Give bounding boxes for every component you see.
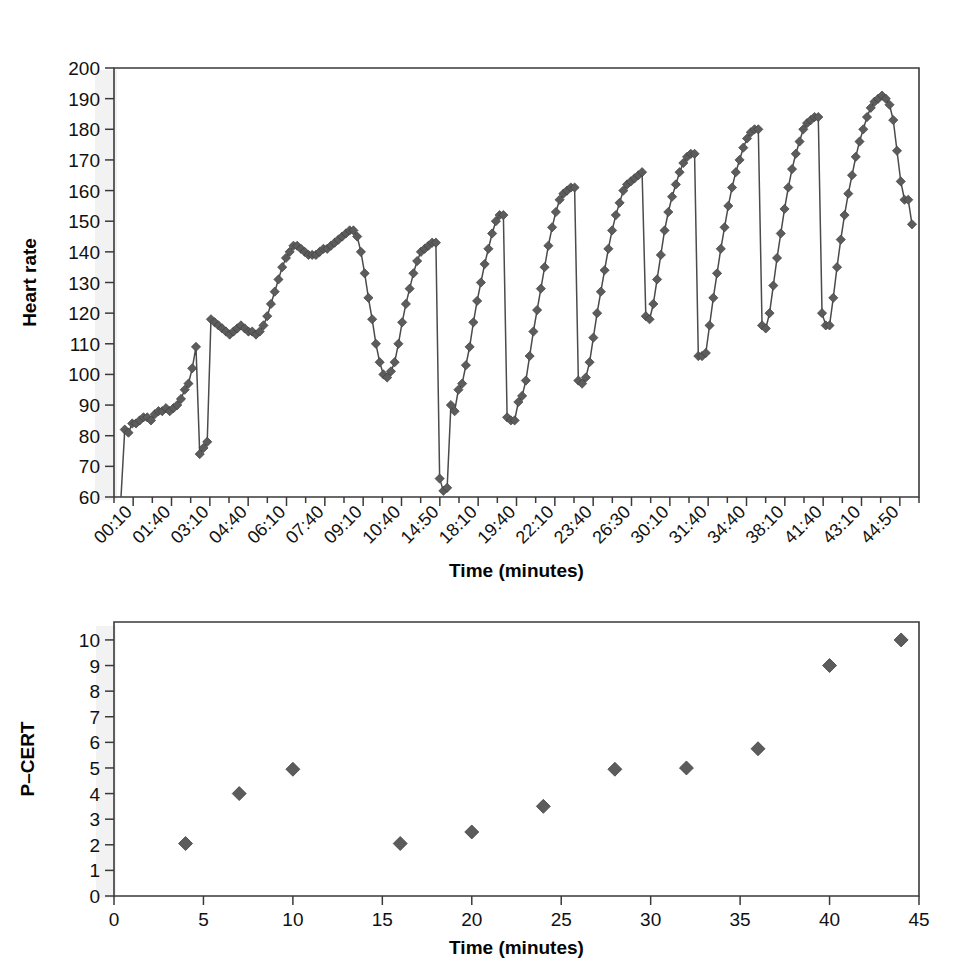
heart-rate-data-point <box>716 244 725 253</box>
heart-rate-data-point <box>817 309 826 318</box>
y-tick-label: 130 <box>68 273 100 294</box>
y-tick-label: 140 <box>68 242 100 263</box>
heart-rate-data-point <box>784 183 793 192</box>
heart-rate-data-point <box>907 220 916 229</box>
x-tick-label: 43:10 <box>818 502 864 548</box>
heart-rate-data-point <box>652 275 661 284</box>
y-tick-label: 100 <box>68 364 100 385</box>
x-tick-label: 00:10 <box>90 502 136 548</box>
x-tick-label: 10 <box>282 909 303 930</box>
x-tick-label: 5 <box>198 909 209 930</box>
heart-rate-data-point <box>435 474 444 483</box>
x-tick-label: 22:10 <box>512 502 558 548</box>
pcert-data-point <box>393 837 407 851</box>
heart-rate-data-point <box>413 256 422 265</box>
heart-rate-data-point <box>521 376 530 385</box>
pcert-data-point <box>286 762 300 776</box>
heart-rate-data-point <box>533 305 542 314</box>
y-tick-label: 6 <box>89 732 100 753</box>
x-tick-label: 03:10 <box>167 502 213 548</box>
x-tick-label: 25 <box>551 909 572 930</box>
pcert-data-point <box>608 762 622 776</box>
y-tick-label: 4 <box>89 784 100 805</box>
y-tick-label: 0 <box>89 886 100 907</box>
y-axis-title: Heart rate <box>19 238 40 327</box>
heart-rate-data-point <box>847 171 856 180</box>
heart-rate-data-point <box>896 177 905 186</box>
heart-rate-data-point <box>476 278 485 287</box>
heart-rate-data-point <box>390 358 399 367</box>
heart-rate-data-point <box>727 183 736 192</box>
x-tick-label: 26:30 <box>588 502 634 548</box>
heart-rate-data-point <box>656 250 665 259</box>
heart-rate-data-point <box>611 210 620 219</box>
pcert-data-point <box>465 825 479 839</box>
heart-rate-data-point <box>596 287 605 296</box>
heart-rate-data-point <box>473 296 482 305</box>
heart-rate-data-point <box>278 263 287 272</box>
x-tick-label: 04:40 <box>205 502 251 548</box>
x-tick-label: 14:50 <box>397 502 443 548</box>
heart-rate-data-point <box>263 312 272 321</box>
y-tick-label: 5 <box>89 758 100 779</box>
x-tick-label: 07:40 <box>282 502 328 548</box>
x-tick-label: 45 <box>908 909 929 930</box>
y-tick-label: 7 <box>89 707 100 728</box>
heart-rate-data-point <box>274 275 283 284</box>
heart-rate-data-point <box>375 358 384 367</box>
x-tick-label: 06:10 <box>243 502 289 548</box>
heart-rate-data-point <box>461 361 470 370</box>
x-tick-label: 40 <box>819 909 840 930</box>
y-tick-label: 1 <box>89 860 100 881</box>
pcert-chart: 012345678910051015202530354045Time (minu… <box>0 600 968 961</box>
heart-rate-data-point <box>705 321 714 330</box>
heart-rate-data-point <box>829 293 838 302</box>
heart-rate-data-point <box>405 284 414 293</box>
heart-rate-data-point <box>592 309 601 318</box>
heart-rate-data-point <box>188 364 197 373</box>
heart-rate-data-point <box>600 266 609 275</box>
heart-rate-data-point <box>735 155 744 164</box>
heart-rate-data-point <box>709 293 718 302</box>
heart-rate-data-point <box>892 146 901 155</box>
heart-rate-data-point <box>720 223 729 232</box>
heart-rate-data-point <box>364 293 373 302</box>
heart-rate-data-point <box>795 137 804 146</box>
heart-rate-data-point <box>660 226 669 235</box>
y-tick-label: 90 <box>79 395 100 416</box>
y-tick-label: 120 <box>68 303 100 324</box>
y-tick-label: 180 <box>68 119 100 140</box>
heart-rate-data-point <box>368 315 377 324</box>
heart-rate-data-point <box>836 235 845 244</box>
x-tick-label: 30:10 <box>627 502 673 548</box>
x-tick-label: 38:10 <box>742 502 788 548</box>
plot-frame <box>114 68 919 497</box>
x-tick-label: 44:50 <box>857 502 903 548</box>
heart-rate-data-point <box>360 269 369 278</box>
heart-rate-data-point <box>488 229 497 238</box>
pcert-data-point <box>232 787 246 801</box>
y-tick-label: 9 <box>89 656 100 677</box>
x-axis-title: Time (minutes) <box>449 560 584 581</box>
x-tick-label: 23:40 <box>550 502 596 548</box>
heart-rate-data-point <box>615 198 624 207</box>
heart-rate-data-point <box>607 226 616 235</box>
heart-rate-data-point <box>712 269 721 278</box>
x-axis-title: Time (minutes) <box>449 937 584 958</box>
pcert-chart-panel: 012345678910051015202530354045Time (minu… <box>0 600 968 961</box>
heart-rate-data-point <box>356 247 365 256</box>
heart-rate-data-point <box>859 125 868 134</box>
y-tick-label: 8 <box>89 681 100 702</box>
heart-rate-data-point <box>371 339 380 348</box>
heart-rate-data-point <box>604 244 613 253</box>
heart-rate-data-point <box>787 165 796 174</box>
x-tick-label: 18:10 <box>435 502 481 548</box>
heart-rate-data-point <box>671 180 680 189</box>
heart-rate-data-point <box>649 299 658 308</box>
heart-rate-data-point <box>469 318 478 327</box>
y-tick-label: 2 <box>89 835 100 856</box>
heart-rate-data-point <box>776 229 785 238</box>
heart-rate-data-point <box>401 299 410 308</box>
heart-rate-data-point <box>191 342 200 351</box>
pcert-data-point <box>823 659 837 673</box>
